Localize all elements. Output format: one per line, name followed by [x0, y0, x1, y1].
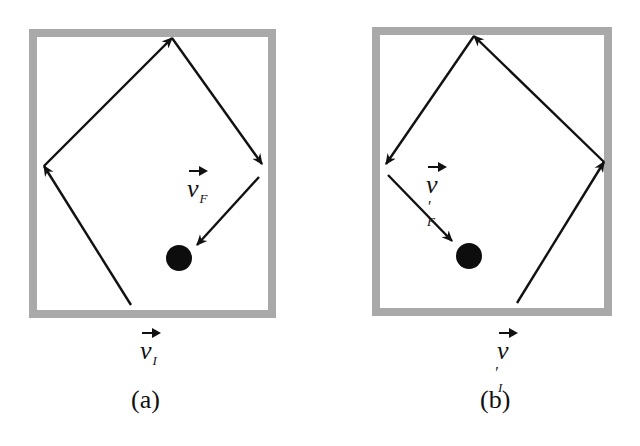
- final-velocity-label-a: v F: [187, 176, 208, 207]
- container-wall: [33, 33, 272, 314]
- target-ball: [166, 245, 192, 271]
- panel-b: [376, 31, 608, 312]
- trajectory-arrow: [517, 162, 604, 303]
- trajectory-arrow: [44, 166, 131, 305]
- vector-arrow-icon: [141, 328, 161, 338]
- figure-canvas: [0, 0, 640, 446]
- trajectory-arrow: [172, 38, 262, 164]
- panel-a: [33, 33, 272, 314]
- initial-velocity-label-a: v I: [140, 338, 157, 369]
- container-wall: [376, 31, 608, 312]
- vector-arrow-icon: [188, 166, 208, 176]
- vector-arrow-icon: [498, 328, 518, 338]
- caption-a: (a): [131, 385, 160, 415]
- trajectory-arrow: [474, 36, 604, 162]
- trajectory-arrow: [44, 38, 172, 166]
- target-ball: [456, 243, 482, 269]
- caption-b: (b): [480, 385, 510, 415]
- trajectory-arrow: [386, 36, 474, 164]
- final-velocity-label-b: v F′: [426, 172, 443, 230]
- vector-arrow-icon: [427, 162, 447, 172]
